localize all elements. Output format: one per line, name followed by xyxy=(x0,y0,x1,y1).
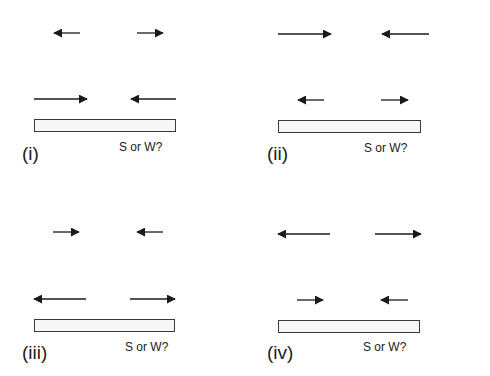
rod-bar xyxy=(34,119,176,132)
question-text: S or W? xyxy=(125,341,168,353)
panel-label: (ii) xyxy=(267,144,288,163)
panel-label: (iii) xyxy=(22,343,47,362)
question-text: S or W? xyxy=(363,341,406,353)
panel-ii: (ii) S or W? xyxy=(245,0,490,188)
question-text: S or W? xyxy=(119,141,162,153)
rod-bar xyxy=(278,320,420,333)
panel-iii: (iii) S or W? xyxy=(0,188,245,376)
panel-label: (i) xyxy=(22,144,39,163)
panel-i: (i) S or W? xyxy=(0,0,245,188)
rod-bar xyxy=(278,120,421,133)
panel-iv: (iv) S or W? xyxy=(245,188,490,376)
question-text: S or W? xyxy=(364,142,407,154)
panel-label: (iv) xyxy=(267,343,293,362)
rod-bar xyxy=(34,319,175,332)
